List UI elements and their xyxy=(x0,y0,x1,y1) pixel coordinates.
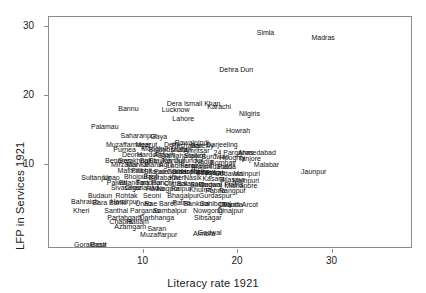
data-point-label: Seoni xyxy=(143,192,161,199)
data-point-label: Dehra Dun xyxy=(219,65,253,72)
x-tick-mark xyxy=(143,249,144,253)
plot-area: SimlaMadrasDehra DunDera Ismail KhanKara… xyxy=(48,16,412,248)
data-point-label: Madras xyxy=(312,33,335,40)
data-point-label: Gaya xyxy=(150,133,167,140)
data-point-label: Muzaffarpur xyxy=(140,230,177,237)
y-tick-mark xyxy=(44,95,48,96)
x-tick-label: 30 xyxy=(317,255,347,266)
x-axis-label: Literacy rate 1921 xyxy=(0,277,426,289)
data-point-label: Lucknow xyxy=(162,106,190,113)
data-point-label: Jaunpur xyxy=(301,167,326,174)
x-tick-mark xyxy=(237,249,238,253)
data-point-label: Palamau xyxy=(91,123,119,130)
data-point-label: Azamgarh xyxy=(114,223,146,230)
y-tick-label: 10 xyxy=(4,158,34,169)
data-point-label: Malabar xyxy=(254,160,279,167)
data-point-label: Kheri xyxy=(73,207,89,214)
data-point-label: Gadwal xyxy=(198,228,222,235)
y-tick-label: 20 xyxy=(4,89,34,100)
data-point-label: Karachi xyxy=(207,102,231,109)
data-point-label: Nilgiris xyxy=(239,109,260,116)
data-point-label: Howrah xyxy=(226,126,250,133)
data-point-label: Bannu xyxy=(118,104,138,111)
data-point-label: Basti xyxy=(90,241,106,248)
x-tick-label: 10 xyxy=(128,255,158,266)
x-tick-mark xyxy=(332,249,333,253)
y-tick-mark xyxy=(44,164,48,165)
data-point-label: Simla xyxy=(257,29,275,36)
x-tick-label: 20 xyxy=(222,255,252,266)
data-point-label: Gurdaspur xyxy=(199,192,232,199)
scatter-chart: SimlaMadrasDehra DunDera Ismail KhanKara… xyxy=(0,0,426,293)
data-point-label: Lahore xyxy=(172,114,194,121)
y-tick-label: 30 xyxy=(4,20,34,31)
y-tick-mark xyxy=(44,26,48,27)
data-point-label: Sibsagar xyxy=(194,214,222,221)
